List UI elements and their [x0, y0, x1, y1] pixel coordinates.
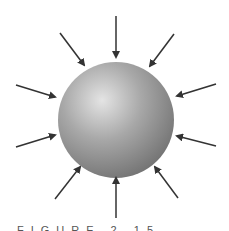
arrow-icon	[155, 167, 178, 198]
arrow-icon	[55, 167, 80, 199]
arrow-icon	[150, 34, 174, 66]
arrow-icon	[177, 84, 216, 96]
arrow-icon	[60, 33, 84, 65]
sphere	[58, 62, 174, 178]
figure-caption: FIGURE 2.15	[17, 225, 160, 231]
arrow-icon	[16, 85, 55, 97]
arrow-icon	[16, 135, 55, 147]
sphere-diagram	[0, 0, 229, 231]
arrow-icon	[177, 136, 216, 146]
